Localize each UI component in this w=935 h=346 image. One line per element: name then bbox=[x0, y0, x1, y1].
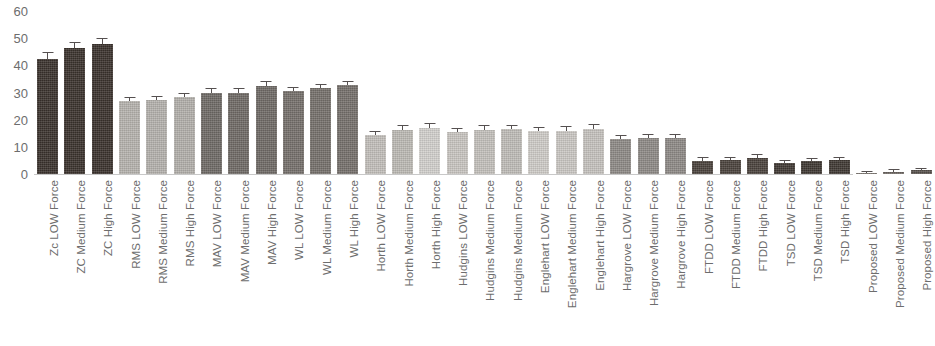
bar bbox=[801, 161, 822, 174]
error-bar-cap bbox=[861, 171, 872, 172]
bar bbox=[692, 161, 713, 174]
y-axis-tick-label: 0 bbox=[0, 168, 28, 181]
x-axis-tick-label: Proposed Medium Force bbox=[894, 180, 906, 308]
error-bar-cap bbox=[697, 157, 708, 158]
x-axis-tick-label: Englehart LOW Force bbox=[539, 180, 551, 293]
error-bar-cap bbox=[342, 81, 353, 82]
bar-slot bbox=[580, 11, 607, 174]
x-label-slot: FTDD High Force bbox=[744, 180, 771, 346]
error-bar-cap bbox=[752, 154, 763, 155]
error-bar-cap bbox=[533, 127, 544, 128]
error-bar-cap bbox=[916, 168, 927, 169]
x-label-slot: Hudgins LOW Force bbox=[443, 180, 470, 346]
bar-slot bbox=[34, 11, 61, 174]
error-bar-cap bbox=[643, 134, 654, 135]
bar bbox=[720, 160, 741, 174]
x-label-slot: Englehart High Force bbox=[580, 180, 607, 346]
x-axis-tick-label: Proposed High Force bbox=[921, 180, 933, 291]
bar-slot bbox=[170, 11, 197, 174]
x-axis-tick-label: Hargrove LOW Force bbox=[621, 180, 633, 291]
bar-slot bbox=[116, 11, 143, 174]
x-axis-tick-label: Zc LOW Force bbox=[48, 180, 60, 256]
bar-slot bbox=[443, 11, 470, 174]
x-label-slot: Zc LOW Force bbox=[34, 180, 61, 346]
bar bbox=[146, 100, 167, 174]
bar bbox=[638, 138, 659, 174]
error-bar bbox=[42, 52, 53, 59]
x-axis-tick-label: Hargrove Medium Force bbox=[648, 180, 660, 306]
error-bar-cap bbox=[233, 88, 244, 89]
x-axis-tick-label: MAV High Force bbox=[266, 180, 278, 265]
bar bbox=[829, 160, 850, 174]
error-bar-cap bbox=[452, 128, 463, 129]
bar bbox=[474, 130, 495, 174]
x-label-slot: RMS LOW Force bbox=[116, 180, 143, 346]
x-label-slot: WL Medium Force bbox=[307, 180, 334, 346]
error-bar-cap bbox=[69, 42, 80, 43]
bar bbox=[365, 135, 386, 174]
x-axis-tick-label: TSD LOW Force bbox=[785, 180, 797, 266]
error-bar-cap bbox=[588, 124, 599, 125]
x-label-slot: RMS High Force bbox=[170, 180, 197, 346]
error-bar-cap bbox=[397, 125, 408, 126]
x-label-slot: Englehart Medium Force bbox=[553, 180, 580, 346]
x-label-slot: Horth High Force bbox=[416, 180, 443, 346]
error-bar-cap bbox=[288, 87, 299, 88]
x-axis-tick-label: Hudgins LOW Force bbox=[457, 180, 469, 286]
bar bbox=[665, 138, 686, 174]
x-axis-tick-label: WL LOW Force bbox=[293, 180, 305, 260]
x-axis-tick-label: RMS Medium Force bbox=[157, 180, 169, 284]
error-bar-cap bbox=[506, 125, 517, 126]
x-axis-tick-label: WL Medium Force bbox=[321, 180, 333, 275]
y-axis-tick-label: 30 bbox=[0, 87, 28, 100]
bar-slot bbox=[525, 11, 552, 174]
x-axis-tick-label: Englehart High Force bbox=[594, 180, 606, 291]
bar-slot bbox=[198, 11, 225, 174]
bar bbox=[447, 132, 468, 174]
x-label-slot: ZC High Force bbox=[89, 180, 116, 346]
error-bar-cap bbox=[670, 134, 681, 135]
x-label-slot: Proposed Medium Force bbox=[880, 180, 907, 346]
bar-slot bbox=[416, 11, 443, 174]
bar bbox=[37, 59, 58, 174]
bar-slot bbox=[853, 11, 880, 174]
bar bbox=[92, 44, 113, 174]
x-axis-tick-label: Hudgins Medium Force bbox=[484, 180, 496, 301]
y-axis-tick-label: 10 bbox=[0, 141, 28, 154]
x-axis-tick-label: ZC Medium Force bbox=[75, 180, 87, 274]
x-axis-tick-label: Horth LOW Force bbox=[375, 180, 387, 272]
bar bbox=[310, 88, 331, 174]
x-axis-tick-label: MAV LOW Force bbox=[211, 180, 223, 267]
x-label-slot: Hudgins Medium Force bbox=[471, 180, 498, 346]
bar bbox=[119, 101, 140, 174]
plot-area bbox=[34, 11, 853, 175]
x-axis-tick-label: Hargrove High Force bbox=[675, 180, 687, 289]
bar-slot bbox=[771, 11, 798, 174]
bar bbox=[911, 170, 932, 174]
bar bbox=[556, 131, 577, 174]
x-label-slot: WL High Force bbox=[334, 180, 361, 346]
error-bar-cap bbox=[424, 123, 435, 124]
bar-slot bbox=[662, 11, 689, 174]
error-bar-cap bbox=[479, 125, 490, 126]
bar bbox=[201, 93, 222, 174]
y-axis-tick-label: 20 bbox=[0, 114, 28, 127]
error-bar-cap bbox=[806, 158, 817, 159]
error-bar-cap bbox=[561, 126, 572, 127]
bar bbox=[419, 128, 440, 174]
x-label-slot: RMS Medium Force bbox=[143, 180, 170, 346]
x-label-slot: Proposed High Force bbox=[908, 180, 935, 346]
y-axis-tick-label: 40 bbox=[0, 59, 28, 72]
bar bbox=[501, 129, 522, 174]
x-axis-tick-label: FTDD Medium Force bbox=[730, 180, 742, 289]
x-axis-tick-label: WL High Force bbox=[348, 180, 360, 258]
bar bbox=[883, 172, 904, 174]
error-bar-cap bbox=[615, 135, 626, 136]
x-label-slot: MAV Medium Force bbox=[225, 180, 252, 346]
error-bar-cap bbox=[261, 81, 272, 82]
x-axis-tick-label: Englehart Medium Force bbox=[566, 180, 578, 308]
x-label-slot: Hargrove Medium Force bbox=[635, 180, 662, 346]
bar-slot bbox=[61, 11, 88, 174]
bar-slot bbox=[471, 11, 498, 174]
